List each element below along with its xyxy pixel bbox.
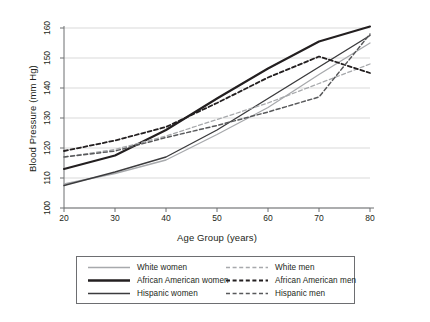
x-tick-label: 70: [304, 213, 334, 223]
legend-item: White women: [87, 261, 229, 274]
x-tick-label: 30: [100, 213, 130, 223]
legend-line-swatch: [225, 274, 269, 287]
x-tick-label: 80: [355, 213, 385, 223]
legend-label: White men: [269, 263, 315, 272]
legend-label: African American women: [131, 276, 229, 285]
legend-label: Hispanic women: [131, 289, 198, 298]
x-tick-label: 20: [49, 213, 79, 223]
legend-line-swatch: [225, 261, 269, 274]
legend-item: Hispanic men: [225, 287, 356, 300]
legend-item: Hispanic women: [87, 287, 229, 300]
legend-line-swatch: [87, 287, 131, 300]
legend-label: African American men: [269, 276, 356, 285]
blood-pressure-by-age-chart: Blood Pressure (mm Hg) 10011012013014015…: [0, 0, 430, 322]
chart-legend: White womenAfrican American womenHispani…: [76, 256, 355, 304]
plot-area: [0, 0, 430, 232]
series-line-hispanic-men: [64, 34, 370, 157]
legend-line-swatch: [87, 274, 131, 287]
legend-label: White women: [131, 263, 187, 272]
legend-column-women: White womenAfrican American womenHispani…: [87, 261, 229, 300]
x-tick-label: 60: [253, 213, 283, 223]
legend-label: Hispanic men: [269, 289, 325, 298]
series-line-white-men: [64, 64, 370, 157]
x-axis-title: Age Group (years): [64, 232, 370, 243]
legend-column-men: White menAfrican American menHispanic me…: [225, 261, 356, 300]
x-tick-label: 50: [202, 213, 232, 223]
legend-item: African American women: [87, 274, 229, 287]
x-tick-label: 40: [151, 213, 181, 223]
legend-item: White men: [225, 261, 356, 274]
legend-line-swatch: [87, 261, 131, 274]
legend-item: African American men: [225, 274, 356, 287]
legend-line-swatch: [225, 287, 269, 300]
